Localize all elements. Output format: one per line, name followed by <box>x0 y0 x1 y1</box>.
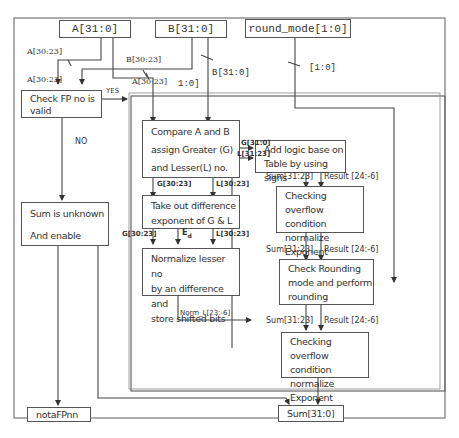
label-g-full: G[31:0] <box>241 139 271 147</box>
label-ed: Ed <box>182 228 192 239</box>
add-logic-line1: Add logic base on <box>264 143 345 157</box>
label-round-bits: [1:0] <box>309 63 336 73</box>
label-g-exp-1: G[30:23] <box>157 180 191 188</box>
sum-unknown-block: Sum is unknown And enable <box>21 202 109 246</box>
take-diff-line1: Take out difference <box>151 198 239 213</box>
label-g-exp-2: G[30:23] <box>122 230 156 238</box>
label-l-exp-2: L[30:23] <box>216 230 249 238</box>
label-ed-sub: d <box>187 232 191 239</box>
label-result-b: Result [24:-6] <box>324 245 378 254</box>
rounding-line3: rounding <box>288 290 373 304</box>
label-result-c: Result [24:-6] <box>324 316 378 325</box>
check-fp-line1: Check FP no is <box>30 93 101 105</box>
overflow2-line1: Checking overflow <box>290 335 368 363</box>
label-l-exp-1: L[30:23] <box>216 180 249 188</box>
label-l-sign: L[31:23] <box>237 150 270 158</box>
overflow1-line1: Checking overflow <box>285 189 363 217</box>
overflow1-line2: condition normalize <box>285 217 363 245</box>
label-b-full: B[31:0] <box>212 68 250 78</box>
rounding-block: Check Rounding mode and perform rounding <box>279 259 374 305</box>
label-b-exp: B[30:23] <box>126 55 161 64</box>
normalize-line2: by an difference and <box>151 281 239 311</box>
label-sum-b: Sum[31:23] <box>266 245 313 254</box>
label-a-exp-2: A[30:23] <box>27 75 62 84</box>
label-no: NO <box>75 137 87 146</box>
overflow-check-block-2: Checking overflow condition normalize Ex… <box>281 332 369 378</box>
overflow2-line3: Exponent <box>290 391 368 405</box>
label-norm-l: Norm_L[23:-6] <box>180 309 230 317</box>
rounding-line1: Check Rounding <box>288 262 373 276</box>
compare-block: Compare A and B assign Greater (G) and L… <box>142 120 240 178</box>
sum-unknown-line1: Sum is unknown <box>30 203 108 225</box>
label-result-a: Result [24:-6] <box>324 172 378 181</box>
input-a: A[31:0] <box>59 20 131 38</box>
take-difference-block: Take out difference exponent of G & L <box>142 195 240 229</box>
label-a-exp-3: A[30:23] <box>132 77 167 86</box>
overflow-check-block-1: Checking overflow condition normalize Ex… <box>276 186 364 233</box>
normalize-line1: Normalize lesser no <box>151 251 239 281</box>
label-yes: YES <box>106 87 119 95</box>
overflow2-line2: condition normalize <box>290 363 368 391</box>
compare-line3: and Lesser(L) no. <box>151 159 239 177</box>
input-round-mode: round_mode[1:0] <box>245 19 351 38</box>
normalize-block: Normalize lesser no by an difference and… <box>142 248 240 296</box>
output-nota-fpnn: notaFPnn <box>27 407 91 422</box>
label-a-exp-1: A[30:23] <box>27 47 62 56</box>
input-b: B[31:0] <box>155 20 227 38</box>
take-diff-line2: exponent of G & L <box>151 213 239 228</box>
compare-line1: Compare A and B <box>151 123 239 141</box>
rounding-line2: mode and perform <box>288 276 373 290</box>
check-fp-valid-block: Check FP no is valid <box>21 90 102 118</box>
sum-unknown-line2: And enable <box>30 225 108 247</box>
label-sum-c: Sum[31:23] <box>266 316 313 325</box>
label-sum-a: Sum[31:23] <box>266 172 313 181</box>
compare-line2: assign Greater (G) <box>151 141 239 159</box>
output-sum: Sum[31:0] <box>278 405 344 422</box>
label-one-zero: 1:0] <box>178 79 200 89</box>
check-fp-line2: valid <box>30 105 101 117</box>
